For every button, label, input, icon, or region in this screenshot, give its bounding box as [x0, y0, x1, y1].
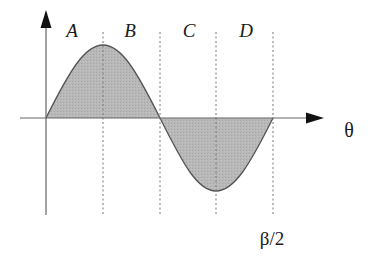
region-label-d: D	[238, 20, 253, 41]
x-axis-arrow-icon	[306, 113, 324, 124]
sine-diagram: A B C D θ β/2	[0, 0, 374, 259]
region-label-b: B	[124, 20, 136, 41]
x-axis-label: θ	[344, 119, 354, 141]
region-label-c: C	[183, 20, 196, 41]
region-label-a: A	[64, 20, 78, 41]
tick-label-beta-half: β/2	[260, 228, 284, 249]
y-axis-arrow-icon	[41, 10, 52, 28]
